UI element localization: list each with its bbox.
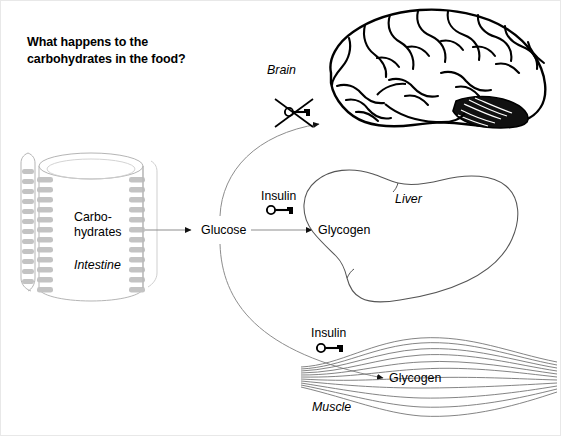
node-glycogen-muscle: Glycogen: [389, 371, 441, 386]
carbohydrates-line-1: Carbo-: [74, 210, 112, 224]
page-title: What happens to the carbohydrates in the…: [27, 34, 217, 68]
organ-label-intestine: Intestine: [74, 258, 121, 273]
organ-label-liver: Liver: [395, 192, 422, 207]
node-glucose: Glucose: [201, 223, 246, 238]
label-insulin-liver: Insulin: [261, 189, 296, 204]
node-carbohydrates: Carbo- hydrates: [74, 210, 144, 240]
key-icon-liver: [267, 206, 293, 214]
brain-illustration: [330, 10, 545, 128]
carbohydrates-line-2: hydrates: [74, 225, 122, 239]
organ-label-muscle: Muscle: [312, 400, 351, 415]
node-glycogen-liver: Glycogen: [318, 223, 370, 238]
key-crossed-out-icon-brain: [275, 99, 313, 127]
key-icon-muscle: [317, 344, 343, 352]
label-insulin-muscle: Insulin: [311, 326, 346, 341]
title-line-2: carbohydrates in the food?: [27, 52, 186, 66]
diagram-canvas: What happens to the carbohydrates in the…: [0, 0, 561, 436]
title-line-1: What happens to the: [27, 35, 148, 49]
organ-label-brain: Brain: [267, 63, 296, 78]
